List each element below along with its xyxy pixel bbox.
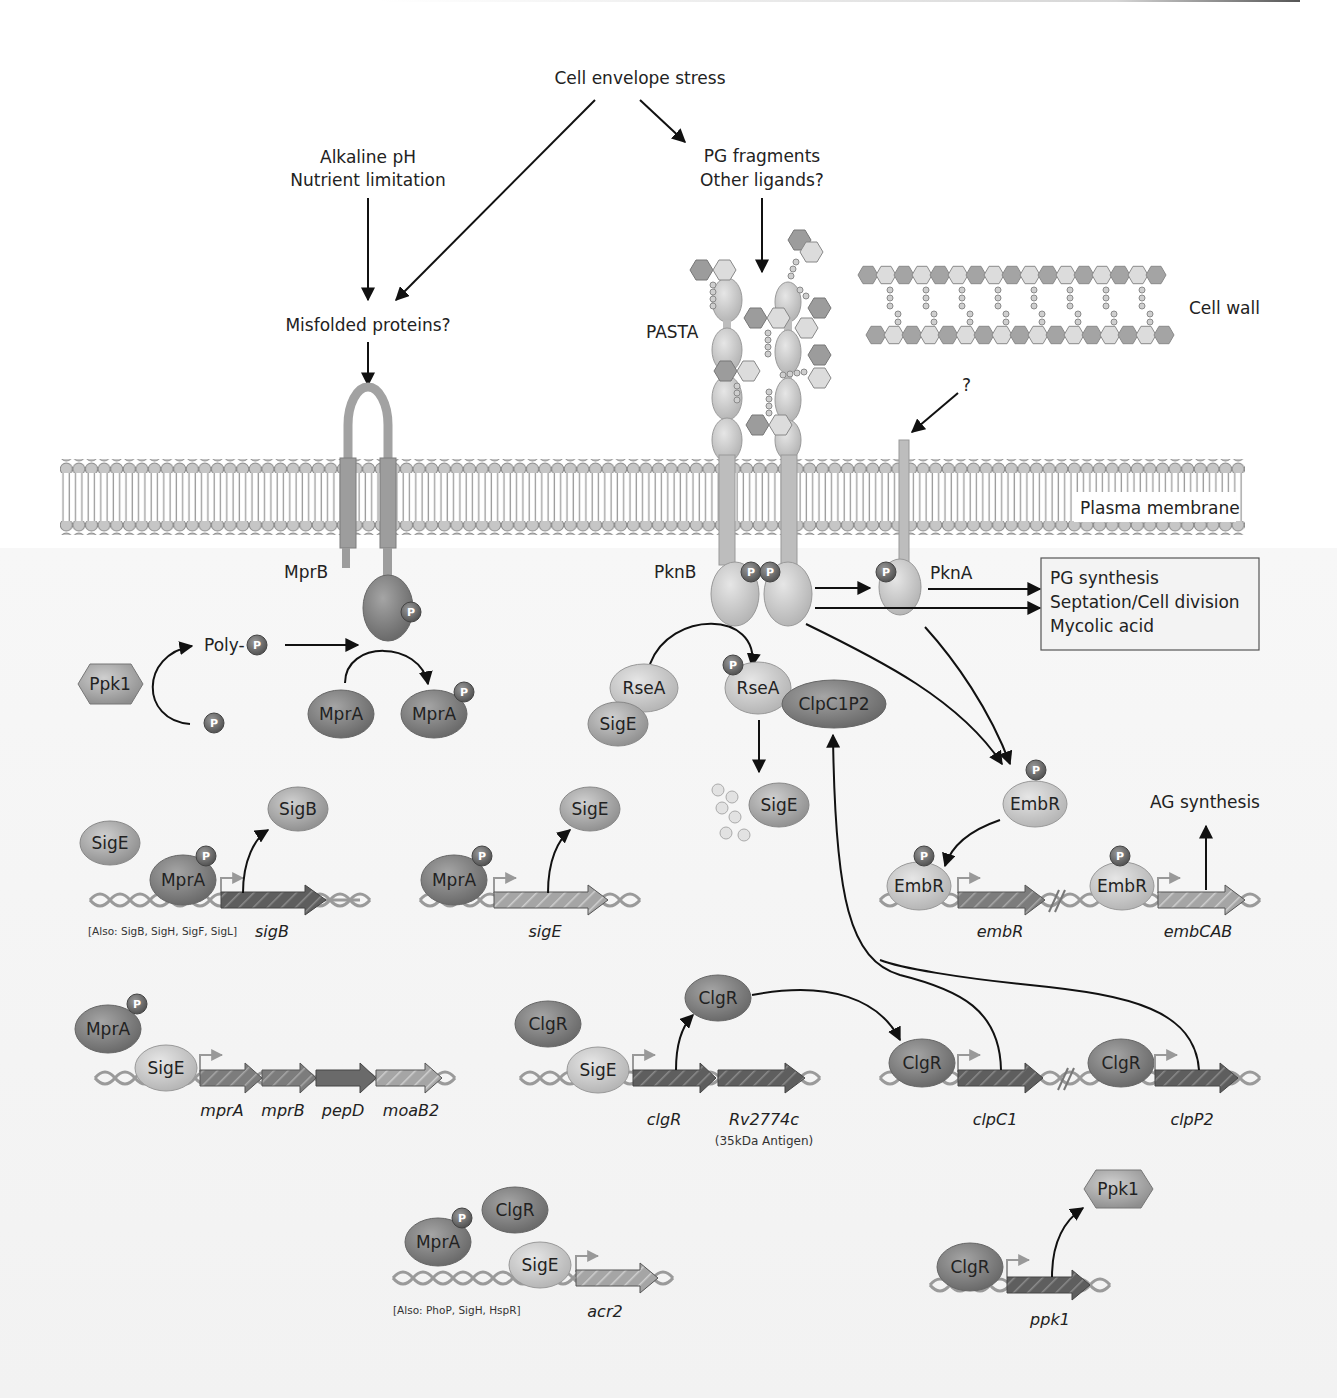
sige-free-protein: SigE: [749, 783, 809, 827]
pepd-gene-label: pepD: [321, 1101, 364, 1120]
svg-text:MprA: MprA: [416, 1232, 460, 1252]
svg-text:SigE: SigE: [571, 799, 608, 819]
svg-text:RseA: RseA: [737, 678, 780, 698]
acr2-gene-label: acr2: [587, 1302, 622, 1321]
svg-text:MprA: MprA: [319, 704, 363, 724]
mpra-gene-label: mprA: [200, 1101, 243, 1120]
arrow-stress-to-pg-fragments: [640, 100, 685, 142]
svg-text:ClgR: ClgR: [950, 1257, 989, 1277]
svg-text:SigE: SigE: [147, 1058, 184, 1078]
clgr-protein: ClgR: [515, 1001, 581, 1047]
acr2-also-note: [Also: PhoP, SigH, HspR]: [393, 1304, 521, 1316]
clgr-protein: ClgR: [482, 1187, 548, 1233]
phospho-icon: P: [472, 846, 492, 866]
mpra-protein: MprA: [308, 690, 374, 738]
poly-p-label: Poly-: [204, 635, 245, 655]
nutrient-limitation-label: Nutrient limitation: [290, 170, 446, 190]
svg-text:MprA: MprA: [86, 1019, 130, 1039]
phospho-icon: P: [1110, 846, 1130, 866]
phospho-icon: P: [760, 562, 780, 582]
svg-text:MprA: MprA: [432, 870, 476, 890]
svg-text:P: P: [1116, 850, 1124, 863]
phospho-icon: P: [452, 1208, 472, 1228]
misfolded-proteins-label: Misfolded proteins?: [285, 315, 450, 335]
svg-text:P: P: [478, 850, 486, 863]
svg-text:P: P: [920, 850, 928, 863]
clgr-protein: ClgR: [1088, 1039, 1154, 1087]
svg-text:P: P: [210, 717, 218, 730]
ppk1-enzyme: Ppk1: [78, 664, 143, 704]
embcab-gene-label: embCAB: [1164, 922, 1233, 941]
embr-phospho-protein: EmbR: [887, 862, 951, 910]
other-ligands-label: Other ligands?: [700, 170, 824, 190]
svg-text:ClpC1P2: ClpC1P2: [798, 694, 869, 714]
plasma-membrane-label: Plasma membrane: [1080, 498, 1240, 518]
svg-text:P: P: [133, 998, 141, 1011]
phospho-icon: P: [723, 655, 743, 675]
svg-text:SigE: SigE: [760, 795, 797, 815]
clgr-gene-label: clgR: [647, 1110, 682, 1129]
embr-protein: EmbR: [1003, 781, 1067, 827]
svg-text:MprA: MprA: [161, 870, 205, 890]
phospho-icon: P: [247, 635, 267, 655]
pknb-label: PknB: [654, 562, 697, 582]
svg-text:EmbR: EmbR: [1097, 876, 1147, 896]
svg-text:MprA: MprA: [412, 704, 456, 724]
clgr-protein: ClgR: [685, 975, 751, 1021]
clpp2-gene-label: clpP2: [1170, 1110, 1213, 1129]
phospho-icon: P: [401, 602, 421, 622]
cellular-outputs-box: PG synthesis Septation/Cell division Myc…: [1041, 558, 1259, 650]
moab2-gene-label: moaB2: [383, 1101, 439, 1120]
output-septation: Septation/Cell division: [1050, 592, 1240, 612]
mprb-label: MprB: [284, 562, 328, 582]
phospho-icon: P: [1026, 760, 1046, 780]
sige-protein: SigE: [509, 1242, 571, 1288]
svg-text:P: P: [766, 566, 774, 579]
phospho-icon: P: [196, 846, 216, 866]
svg-text:SigE: SigE: [521, 1255, 558, 1275]
svg-text:P: P: [882, 566, 890, 579]
unknown-ligand-label: ?: [962, 375, 971, 395]
arrow-unknown-to-pkna: [912, 393, 958, 432]
rv2774c-note: (35kDa Antigen): [715, 1134, 813, 1148]
svg-text:SigE: SigE: [579, 1060, 616, 1080]
ag-synthesis-label: AG synthesis: [1150, 792, 1260, 812]
svg-text:EmbR: EmbR: [1010, 794, 1060, 814]
svg-text:P: P: [1032, 764, 1040, 777]
cell-wall-label: Cell wall: [1189, 298, 1260, 318]
svg-text:ClgR: ClgR: [698, 988, 737, 1008]
svg-text:P: P: [253, 639, 261, 652]
svg-text:P: P: [747, 566, 755, 579]
cell-wall-glycan-strands: [858, 266, 1174, 343]
clpc1p2-protease: ClpC1P2: [782, 680, 886, 728]
sigb-also-note: [Also: SigB, SigH, SigF, SigL]: [88, 925, 237, 937]
ppk1-gene-label: ppk1: [1029, 1310, 1070, 1329]
clgr-protein: ClgR: [889, 1039, 955, 1087]
svg-text:RseA: RseA: [623, 678, 666, 698]
svg-text:P: P: [407, 606, 415, 619]
cell-envelope-stress-label: Cell envelope stress: [554, 68, 725, 88]
rv2774c-gene-label: Rv2774c: [729, 1110, 799, 1129]
alkaline-ph-label: Alkaline pH: [320, 147, 416, 167]
phospho-icon: P: [876, 562, 896, 582]
pasta-label: PASTA: [646, 322, 699, 342]
sige-protein: SigE: [135, 1045, 197, 1091]
svg-text:P: P: [202, 850, 210, 863]
sige-protein: SigE: [567, 1047, 629, 1093]
embr-gene-label: embR: [977, 922, 1024, 941]
clgr-protein: ClgR: [937, 1243, 1003, 1291]
ppk1-enzyme: Ppk1: [1084, 1170, 1153, 1208]
embr-phospho-protein: EmbR: [1090, 862, 1154, 910]
mprab-pknb-signaling-diagram: Cell envelope stress Alkaline pH Nutrien…: [0, 0, 1337, 1398]
output-mycolic-acid: Mycolic acid: [1050, 616, 1154, 636]
phospho-icon: P: [454, 682, 474, 702]
phospho-icon: P: [914, 846, 934, 866]
sige-protein: SigE: [560, 787, 620, 831]
svg-text:ClgR: ClgR: [495, 1200, 534, 1220]
svg-text:ClgR: ClgR: [902, 1053, 941, 1073]
svg-text:EmbR: EmbR: [894, 876, 944, 896]
svg-text:P: P: [729, 659, 737, 672]
mprb-gene-label: mprB: [261, 1101, 304, 1120]
clpc1-gene-label: clpC1: [973, 1110, 1018, 1129]
phospho-icon: P: [204, 713, 224, 733]
